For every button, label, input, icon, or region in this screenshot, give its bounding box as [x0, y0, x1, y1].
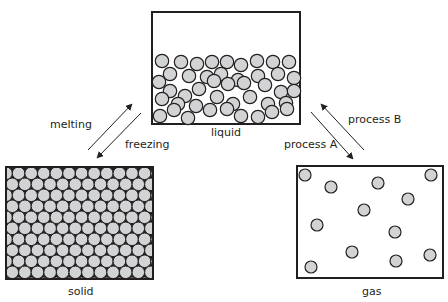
process-a-arrow — [311, 112, 353, 159]
freezing-arrow — [97, 113, 141, 158]
states-of-matter-diagram — [0, 0, 448, 302]
liquid-container — [152, 12, 301, 125]
liquid-label: liquid — [211, 126, 241, 139]
process-a-label: process A — [284, 138, 337, 151]
process-b-label: process B — [348, 113, 401, 126]
melting-label: melting — [50, 118, 92, 131]
freezing-label: freezing — [125, 138, 169, 151]
solid-container — [0, 167, 164, 290]
solid-label: solid — [68, 285, 94, 298]
gas-label: gas — [362, 285, 381, 298]
gas-container — [297, 166, 443, 278]
